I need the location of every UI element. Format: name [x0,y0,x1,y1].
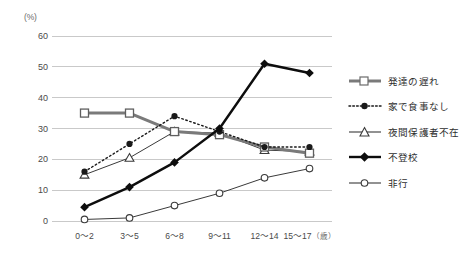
legend-label-delinquency: 非行 [388,176,408,190]
legend-swatch-delinquency [348,176,382,190]
x-axis-tick-3: 9～11 [208,229,231,241]
legend-item-3: 不登校 [348,145,459,171]
legend-label-guardian-absent-at-night: 夜間保護者不在 [388,125,459,139]
series-3 [80,59,314,211]
series-2 [80,127,314,178]
x-axis-tick-2: 6～8 [165,229,184,241]
series-1 [81,113,312,175]
legend-item-1: 家で食事なし [348,94,459,120]
series-0 [81,109,314,157]
legend-swatch-school-refusal [348,150,382,164]
x-axis-tick-4: 12～14 [250,229,278,241]
legend-swatch-developmental-delay [348,74,382,88]
legend-item-4: 非行 [348,170,459,196]
x-axis-tick-5: 15～17（歳） [283,229,335,241]
legend-item-0: 発達の遅れ [348,68,459,94]
legend-swatch-no-meals-at-home [348,99,382,113]
legend-label-developmental-delay: 発達の遅れ [388,74,439,88]
x-axis-tick-1: 3～5 [120,229,139,241]
x-axis-unit-label: （歳） [312,232,336,241]
x-axis-tick-0: 0～2 [75,229,94,241]
grid-lines [52,36,332,221]
line-chart: (%) 0102030405060 0～23～56～89～1112～1415～1… [0,0,475,255]
legend-item-2: 夜間保護者不在 [348,119,459,145]
legend-swatch-guardian-absent-at-night [348,125,382,139]
legend-label-school-refusal: 不登校 [388,150,419,164]
chart-legend: 発達の遅れ 家で食事なし 夜間保護者不在 不登校 [348,68,459,196]
legend-label-no-meals-at-home: 家で食事なし [388,99,449,113]
